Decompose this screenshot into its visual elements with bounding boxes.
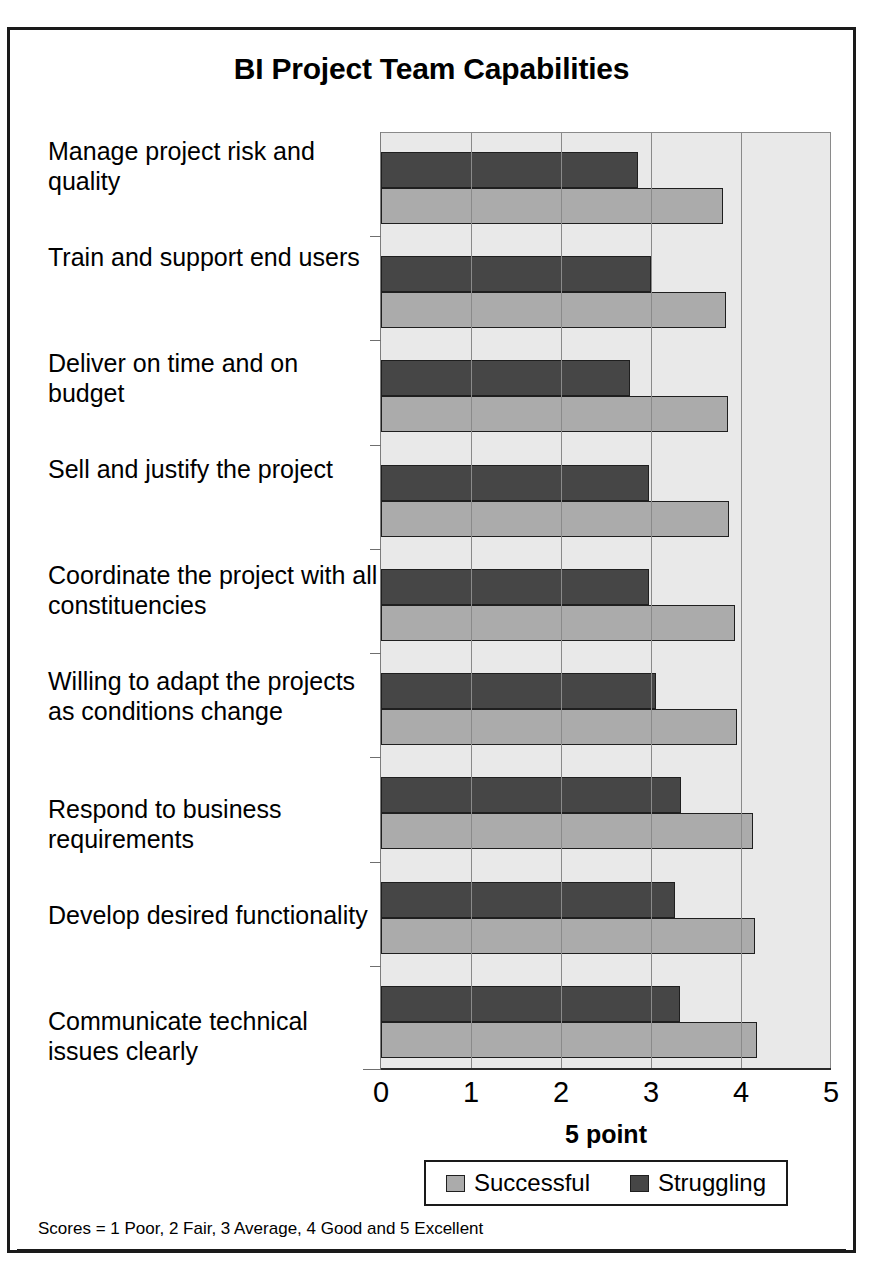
legend-swatch-struggling-icon <box>630 1175 649 1192</box>
bar-struggling-7 <box>381 882 675 918</box>
bar-successful-3 <box>381 501 729 537</box>
x-tick-label-0: 0 <box>373 1076 389 1109</box>
category-tick-3 <box>370 445 381 446</box>
legend-entry-successful[interactable]: Successful <box>446 1169 590 1197</box>
x-axis-title: 5 point <box>381 1120 831 1149</box>
x-tick-label-1: 1 <box>463 1076 479 1109</box>
gridline-2 <box>561 132 562 1070</box>
bar-struggling-0 <box>381 152 638 188</box>
bar-successful-1 <box>381 292 726 328</box>
bar-struggling-1 <box>381 256 651 292</box>
gridline-3 <box>651 132 652 1070</box>
category-tick-6 <box>370 757 381 758</box>
bar-struggling-8 <box>381 986 680 1022</box>
bar-struggling-3 <box>381 465 649 501</box>
bar-struggling-4 <box>381 569 649 605</box>
category-tick-1 <box>370 236 381 237</box>
category-tick-2 <box>370 340 381 341</box>
bar-struggling-2 <box>381 360 630 396</box>
category-label-respond-to-business-requirements: Respond to business requirements <box>48 794 378 854</box>
category-tick-4 <box>370 549 381 550</box>
bar-successful-6 <box>381 813 753 849</box>
category-axis-labels: Manage project risk and quality Train an… <box>38 132 378 1070</box>
legend-swatch-successful-icon <box>446 1175 465 1192</box>
category-label-develop-desired-functionality: Develop desired functionality <box>48 900 378 930</box>
category-label-coordinate-the-project: Coordinate the project with all constitu… <box>48 560 378 620</box>
legend-label-successful: Successful <box>474 1169 590 1197</box>
bar-struggling-6 <box>381 777 681 813</box>
bar-successful-2 <box>381 396 728 432</box>
gridline-4 <box>741 132 742 1070</box>
category-label-deliver-on-time-and-on-budget: Deliver on time and on budget <box>48 348 378 408</box>
x-axis-line <box>381 1068 831 1070</box>
footnote-text: Scores = 1 Poor, 2 Fair, 3 Average, 4 Go… <box>38 1219 483 1239</box>
legend-label-struggling: Struggling <box>658 1169 766 1197</box>
category-label-willing-to-adapt-the-projects: Willing to adapt the projects as conditi… <box>48 666 378 726</box>
bar-successful-8 <box>381 1022 757 1058</box>
x-axis-tick-labels: 012345 <box>381 1076 831 1116</box>
category-label-sell-and-justify-the-project: Sell and justify the project <box>48 454 378 484</box>
x-axis-lead-line <box>363 1069 381 1070</box>
x-tick-label-2: 2 <box>553 1076 569 1109</box>
footnote-divider <box>17 1249 846 1251</box>
category-label-train-and-support-end-users: Train and support end users <box>48 242 378 272</box>
gridline-1 <box>471 132 472 1070</box>
bar-successful-4 <box>381 605 735 641</box>
category-tick-8 <box>370 966 381 967</box>
bar-successful-5 <box>381 709 737 745</box>
category-tick-5 <box>370 653 381 654</box>
chart-legend: Successful Struggling <box>424 1160 788 1206</box>
plot-area-wrapper <box>381 132 831 1070</box>
x-tick-label-3: 3 <box>643 1076 659 1109</box>
x-tick-label-5: 5 <box>823 1076 839 1109</box>
chart-title: BI Project Team Capabilities <box>10 52 853 86</box>
bar-successful-7 <box>381 918 755 954</box>
bar-struggling-5 <box>381 673 656 709</box>
x-tick-label-4: 4 <box>733 1076 749 1109</box>
category-label-communicate-technical-issues-clearly: Communicate technical issues clearly <box>48 1006 378 1066</box>
category-label-manage-project-risk-and-quality: Manage project risk and quality <box>48 136 378 196</box>
bar-successful-0 <box>381 188 723 224</box>
category-tick-7 <box>370 862 381 863</box>
legend-entry-struggling[interactable]: Struggling <box>630 1169 766 1197</box>
chart-figure-frame: BI Project Team Capabilities Manage proj… <box>7 27 856 1253</box>
